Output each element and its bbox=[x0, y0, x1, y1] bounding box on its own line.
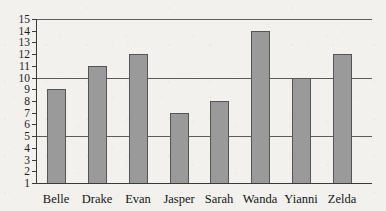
chart-canvas: 123456789101112131415 BelleDrakeEvanJasp… bbox=[0, 0, 386, 211]
bar-jasper[interactable] bbox=[171, 114, 189, 184]
bars-group bbox=[48, 32, 352, 184]
y-axis-labels-group: 123456789101112131415 bbox=[19, 13, 31, 189]
y-tick-label-15: 15 bbox=[19, 13, 31, 25]
y-tick-label-5: 5 bbox=[24, 130, 30, 142]
category-label-sarah: Sarah bbox=[205, 192, 234, 206]
y-tick-label-4: 4 bbox=[24, 142, 30, 154]
y-tick-label-14: 14 bbox=[19, 25, 31, 37]
category-label-wanda: Wanda bbox=[243, 192, 278, 206]
y-tick-label-3: 3 bbox=[24, 154, 30, 166]
bar-belle[interactable] bbox=[48, 90, 66, 184]
y-tick-label-10: 10 bbox=[19, 72, 31, 84]
category-label-drake: Drake bbox=[82, 192, 113, 206]
y-tick-label-11: 11 bbox=[19, 60, 30, 72]
bar-chart: 123456789101112131415 BelleDrakeEvanJasp… bbox=[0, 0, 386, 211]
bar-sarah[interactable] bbox=[211, 102, 229, 184]
category-label-jasper: Jasper bbox=[163, 192, 195, 206]
y-tick-label-9: 9 bbox=[24, 83, 30, 95]
y-tick-label-6: 6 bbox=[24, 118, 30, 130]
bar-zelda[interactable] bbox=[334, 55, 352, 184]
axes-group bbox=[37, 19, 373, 184]
category-label-evan: Evan bbox=[125, 192, 151, 206]
y-axis-ticks-group bbox=[32, 20, 37, 184]
category-label-zelda: Zelda bbox=[328, 192, 357, 206]
category-label-yianni: Yianni bbox=[284, 192, 318, 206]
y-tick-label-13: 13 bbox=[19, 36, 31, 48]
bar-evan[interactable] bbox=[130, 55, 148, 184]
category-labels-group: BelleDrakeEvanJasperSarahWandaYianniZeld… bbox=[43, 192, 357, 206]
bar-wanda[interactable] bbox=[252, 32, 270, 184]
bar-drake[interactable] bbox=[89, 67, 107, 184]
y-tick-label-8: 8 bbox=[24, 95, 30, 107]
category-label-belle: Belle bbox=[43, 192, 70, 206]
y-tick-label-1: 1 bbox=[24, 177, 30, 189]
gridlines-group bbox=[36, 20, 372, 137]
y-tick-label-2: 2 bbox=[24, 165, 30, 177]
y-tick-label-12: 12 bbox=[19, 48, 31, 60]
y-tick-label-7: 7 bbox=[24, 107, 30, 119]
bar-yianni[interactable] bbox=[293, 79, 311, 184]
